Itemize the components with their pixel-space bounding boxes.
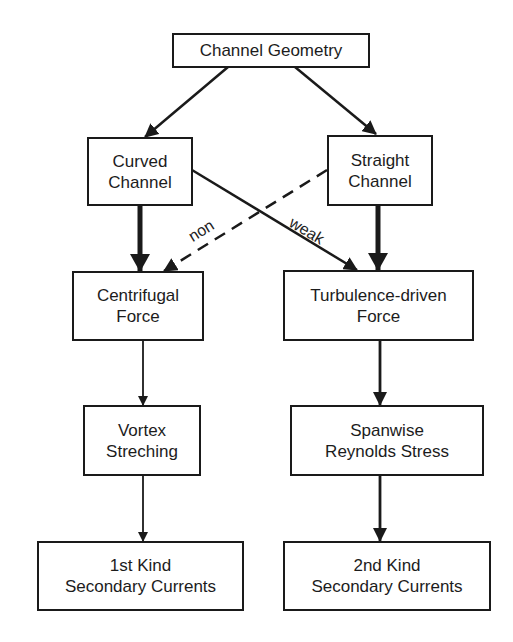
- node-label-line2: Reynolds Stress: [325, 441, 449, 462]
- node-label-line1: Vortex: [118, 420, 166, 441]
- node-label-line1: Straight: [351, 150, 410, 171]
- node-spanwise-stress: Spanwise Reynolds Stress: [290, 405, 484, 476]
- node-channel-geometry: Channel Geometry: [172, 33, 370, 68]
- node-label-line2: Secondary Currents: [311, 576, 462, 597]
- node-first-kind: 1st Kind Secondary Currents: [37, 541, 244, 611]
- node-label-line1: Spanwise: [350, 420, 424, 441]
- node-label-line2: Force: [357, 306, 400, 327]
- node-label-line2: Channel: [108, 172, 171, 193]
- node-straight-channel: Straight Channel: [327, 135, 433, 206]
- node-label-line2: Channel: [348, 171, 411, 192]
- node-label: Channel Geometry: [200, 40, 343, 61]
- node-turbulence-force: Turbulence-driven Force: [283, 270, 474, 341]
- node-label-line1: Centrifugal: [97, 285, 179, 306]
- node-label-line1: 2nd Kind: [353, 555, 420, 576]
- node-second-kind: 2nd Kind Secondary Currents: [283, 541, 491, 611]
- arrow-geometry-to-curved: [145, 67, 228, 137]
- arrow-geometry-to-straight: [295, 67, 376, 134]
- node-label-line1: Curved: [113, 151, 168, 172]
- node-label-line1: Turbulence-driven: [310, 285, 446, 306]
- node-centrifugal-force: Centrifugal Force: [72, 271, 204, 341]
- node-label-line2: Force: [116, 306, 159, 327]
- node-label-line2: Streching: [106, 441, 178, 462]
- node-vortex-stretching: Vortex Streching: [83, 405, 201, 476]
- node-curved-channel: Curved Channel: [87, 137, 193, 206]
- node-label-line2: Secondary Currents: [65, 576, 216, 597]
- node-label-line1: 1st Kind: [110, 555, 171, 576]
